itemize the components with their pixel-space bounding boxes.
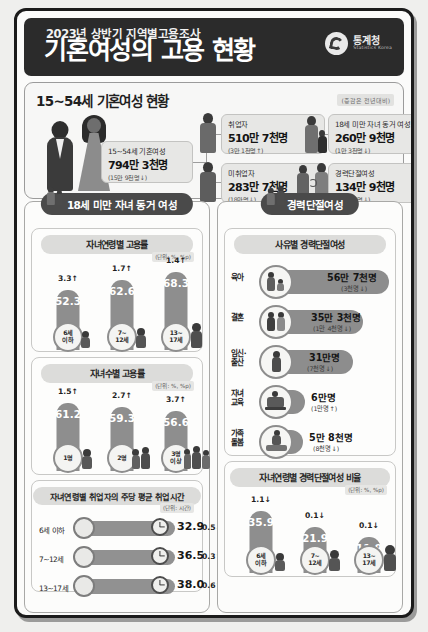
stat-box-married-women: 15~54세 기혼여성 794만 3천명 (15만 9천명↓) xyxy=(101,141,193,183)
woman-face-icon xyxy=(73,546,95,568)
panel-weekly-hours: 자녀연령별 취업자의 주당 평균 취업시간 (단위: 시간) 6세 이하 32.… xyxy=(31,480,203,592)
clock-icon xyxy=(151,518,169,536)
row-label: 13~17세 xyxy=(39,582,68,593)
stat-value: 794만 3천명 xyxy=(108,156,186,172)
bar-category: 1명 xyxy=(53,443,83,473)
husband-figure-icon xyxy=(45,121,75,191)
row-value: 35만 3천명 xyxy=(311,310,361,324)
pregnant-woman-icon xyxy=(259,345,293,379)
panel-title: 사유별 경력단절여성 xyxy=(234,235,386,254)
bar-category: 7~ 12세 xyxy=(107,322,137,352)
chart-career-break-reasons: 육아 56만 7천명 (3천명↓) 결혼 xyxy=(225,263,395,463)
parent-child-icon xyxy=(259,265,293,299)
child-icon xyxy=(81,331,90,348)
row-value: 31만명 xyxy=(309,350,340,364)
panel-employment-by-child-age: 자녀연령별 고용률 (단위: %, %p) 3.3↑ 52.3 6세 이하 xyxy=(31,228,203,352)
child-icon xyxy=(136,328,146,348)
logo-text: 통계청 Statistics Korea xyxy=(353,36,392,51)
tab-career-break[interactable]: 경력단절여성 xyxy=(261,193,359,215)
row-value: 5만 8천명 xyxy=(309,430,353,444)
hours-row: 13~17세 38.0 0.6↑ xyxy=(39,573,195,602)
children-icon xyxy=(132,447,150,469)
statistics-korea-logo: 통계청 Statistics Korea xyxy=(325,32,392,55)
child-icon xyxy=(82,449,92,469)
logo-name-en: Statistics Korea xyxy=(353,46,392,51)
row-value: 56만 7천명 xyxy=(327,270,377,284)
bar-group: 0.1↓ 21.9 7~ 12세 xyxy=(293,523,337,573)
taegeuk-logo-icon xyxy=(325,32,348,55)
row-value: 32.9 xyxy=(177,520,204,533)
bar-delta: 0.1↓ xyxy=(359,521,379,530)
chart-employment-by-child-count: 1.5↑ 61.2 1명 2.7↑ 59.3 xyxy=(32,387,202,475)
column-with-child: 18세 미만 자녀 동거 여성 자녀연령별 고용률 (단위: %, %p) 3.… xyxy=(24,201,210,613)
stat-label: 경력단절여성 xyxy=(335,168,414,178)
mother-child-tab-icon xyxy=(47,185,65,205)
unemployed-woman-icon xyxy=(197,162,219,202)
wedding-couple-icon xyxy=(259,305,293,339)
bar-category: 6세 이하 xyxy=(246,545,276,575)
bar-category: 7~ 12세 xyxy=(300,545,330,575)
row-label: 6세 이하 xyxy=(39,524,65,535)
child-icon xyxy=(191,323,202,348)
row-label: 육아 xyxy=(231,274,257,283)
clock-icon xyxy=(151,547,169,565)
bar-value: 68.3 xyxy=(163,277,189,289)
row-value: 6만명 xyxy=(311,390,336,404)
reason-row: 임신· 출산 31만명 (7천명↓) xyxy=(231,343,389,383)
bar-delta: 1.1↓ xyxy=(251,495,271,504)
row-value: 38.0 xyxy=(177,578,204,591)
bar-delta: 3.7↑ xyxy=(166,395,186,404)
bar-delta: 3.3↑ xyxy=(58,274,78,283)
bar-value: 61.2 xyxy=(55,408,81,420)
bar-group: 3.7↑ 56.6 3명 이상 xyxy=(154,407,198,471)
bar-category: 13~ 17세 xyxy=(354,545,384,575)
row-label: 결혼 xyxy=(231,314,257,323)
row-label: 임신· 출산 xyxy=(231,350,257,367)
chart-weekly-hours: 6세 이하 32.9 0.5↓ 7~12세 36.5 0.3↑ xyxy=(32,515,202,602)
stat-box-with-child: 18세 미만 자녀 동거 여성 260만 9천명 (1만 3천명↓) xyxy=(328,114,414,154)
bar-group: 3.3↑ 52.3 6세 이하 xyxy=(46,286,90,350)
row-delta: (8천명↓) xyxy=(313,444,339,453)
row-label: 7~12세 xyxy=(39,553,64,564)
career-break-tab-icon xyxy=(267,185,285,205)
page-title: 기혼여성의 고용 현황 xyxy=(44,38,255,64)
overview-title: 15~54세 기혼여성 현황 xyxy=(36,90,169,110)
bar-category: 6세 이하 xyxy=(53,322,83,352)
bar-value: 59.3 xyxy=(109,412,135,424)
elder-care-icon xyxy=(259,425,293,459)
bar-delta: 1.7↑ xyxy=(112,264,132,273)
row-value: 36.5 xyxy=(177,549,204,562)
bar-group: 0.1↓ 11.9 13~ 17세 xyxy=(347,533,391,573)
poster-header: 2023년 상반기 지역별고용조사 기혼여성의 고용 현황 통계청 Statis… xyxy=(24,18,404,76)
clock-icon xyxy=(151,576,169,594)
mother-with-child-icon xyxy=(304,116,328,153)
column-career-break: 경력단절여성 사유별 경력단절여성 육아 56만 7 xyxy=(217,201,403,613)
bar-value: 56.6 xyxy=(163,416,189,428)
study-child-icon xyxy=(259,385,293,419)
tab-with-child[interactable]: 18세 미만 자녀 동거 여성 xyxy=(41,193,193,215)
overview-note: (증감은 전년대비) xyxy=(337,94,394,106)
bar-group: 2.7↑ 59.3 2명 xyxy=(100,403,144,471)
bar-group: 1.5↑ 61.2 1명 xyxy=(46,399,90,471)
bar-group: 1.4↑ 68.3 13~ 17세 xyxy=(154,268,198,350)
bar-value: 52.3 xyxy=(55,295,81,307)
employed-woman-icon xyxy=(197,113,219,153)
stat-delta: (15만 9천명↓) xyxy=(108,173,186,182)
panel-career-break-ratio: 자녀연령별 경력단절여성 비율 (단위: %, %p) 1.1↓ 35.9 6세… xyxy=(224,461,396,577)
tab-label: 경력단절여성 xyxy=(287,199,343,211)
child-icon xyxy=(275,553,285,571)
reason-row: 결혼 35만 3천명 (1만 4천명↓) xyxy=(231,303,389,343)
panel-unit: (단위: 시간) xyxy=(160,503,194,513)
chart-career-break-ratio: 1.1↓ 35.9 6세 이하 0.1↓ 21.9 xyxy=(225,491,395,577)
bar-delta: 0.1↓ xyxy=(305,511,325,520)
bar-delta: 2.7↑ xyxy=(112,391,132,400)
chart-employment-by-child-age: 3.3↑ 52.3 6세 이하 1.7↑ 62.6 xyxy=(32,258,202,354)
bar-group: 1.1↓ 35.9 6세 이하 xyxy=(239,507,283,573)
tab-label: 18세 미만 자녀 동거 여성 xyxy=(67,199,177,211)
hours-row: 6세 이하 32.9 0.5↓ xyxy=(39,515,195,544)
bar-delta: 1.5↑ xyxy=(58,387,78,396)
bar-value: 21.9 xyxy=(302,532,328,544)
bar-category: 13~ 17세 xyxy=(161,322,191,352)
stat-delta: (1만 3천명↓) xyxy=(335,146,414,155)
stat-value: 260만 9천명 xyxy=(335,129,414,145)
